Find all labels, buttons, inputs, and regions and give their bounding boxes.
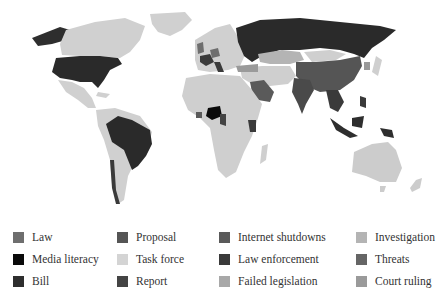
region-greenland: [150, 12, 192, 36]
swatch-law-enforcement: [219, 254, 230, 265]
region-madagascar: [260, 144, 268, 164]
swatch-task-force: [117, 254, 128, 265]
legend-label: Task force: [136, 253, 184, 265]
legend-item-court-ruling: Court ruling: [356, 273, 432, 289]
legend-item-report: Report: [117, 273, 167, 289]
legend-item-internet-shutdowns: Internet shutdowns: [219, 229, 326, 245]
region-tasmania: [380, 186, 386, 192]
region-uk: [197, 42, 204, 54]
legend-label: Report: [136, 275, 167, 287]
region-japan: [372, 56, 382, 76]
region-ghana: [196, 112, 202, 118]
region-philippines: [360, 96, 366, 108]
swatch-investigation: [356, 232, 367, 243]
swatch-threats: [356, 254, 367, 265]
legend: Law Media literacy Bill Proposal Task fo…: [0, 226, 442, 301]
legend-label: Investigation: [375, 231, 435, 243]
legend-item-bill: Bill: [13, 273, 49, 289]
swatch-media-literacy: [13, 254, 24, 265]
legend-item-media-literacy: Media literacy: [13, 251, 99, 267]
region-caribbean: [96, 92, 110, 98]
legend-label: Failed legislation: [238, 275, 318, 287]
swatch-court-ruling: [356, 276, 367, 287]
legend-item-failed-legislation: Failed legislation: [219, 273, 318, 289]
swatch-proposal: [117, 232, 128, 243]
region-mexico: [58, 80, 96, 108]
region-southeast-asia: [326, 90, 344, 112]
legend-label: Law: [32, 231, 52, 243]
legend-item-investigation: Investigation: [356, 229, 435, 245]
region-cameroon: [220, 114, 226, 126]
legend-label: Law enforcement: [238, 253, 319, 265]
legend-label: Proposal: [136, 231, 176, 243]
legend-label: Threats: [375, 253, 409, 265]
swatch-failed-legislation: [219, 276, 230, 287]
legend-label: Bill: [32, 275, 49, 287]
region-png: [380, 128, 394, 138]
region-korea: [364, 62, 370, 70]
legend-label: Internet shutdowns: [238, 231, 326, 243]
legend-item-task-force: Task force: [117, 251, 184, 267]
legend-item-threats: Threats: [356, 251, 409, 267]
region-australia: [352, 142, 402, 182]
swatch-bill: [13, 276, 24, 287]
legend-item-law: Law: [13, 229, 52, 245]
legend-label: Court ruling: [375, 275, 432, 287]
swatch-report: [117, 276, 128, 287]
world-map: [0, 0, 442, 222]
region-canada: [60, 18, 145, 58]
legend-item-proposal: Proposal: [117, 229, 176, 245]
region-india: [292, 78, 314, 114]
region-new-zealand: [410, 178, 422, 192]
region-indonesia: [330, 116, 364, 138]
legend-item-law-enforcement: Law enforcement: [219, 251, 319, 267]
swatch-law: [13, 232, 24, 243]
swatch-internet-shutdowns: [219, 232, 230, 243]
legend-label: Media literacy: [32, 253, 99, 265]
